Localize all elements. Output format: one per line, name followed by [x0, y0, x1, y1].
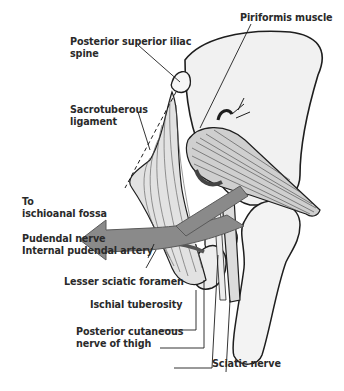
label-lesser-sciatic-foramen: Lesser sciatic foramen: [64, 276, 184, 288]
label-ischial-tuberosity: Ischial tuberosity: [90, 299, 182, 311]
label-posterior-cutaneous-nerve-of-thigh: Posterior cutaneous nerve of thigh: [76, 326, 183, 350]
label-pudendal-nerve: Pudendal nerve: [22, 233, 105, 245]
label-sacrotuberous-ligament: Sacrotuberous ligament: [70, 104, 148, 128]
label-sciatic-nerve: Sciatic nerve: [212, 358, 281, 370]
label-internal-pudendal-artery: Internal pudendal artery: [22, 245, 153, 257]
label-posterior-superior-iliac-spine: Posterior superior iliac spine: [70, 36, 191, 60]
label-piriformis-muscle: Piriformis muscle: [240, 12, 333, 24]
label-to-ischioanal-fossa: To ischioanal fossa: [22, 196, 107, 220]
